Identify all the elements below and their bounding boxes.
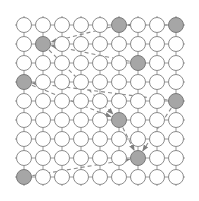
grid-node (55, 56, 70, 71)
grid-node (17, 132, 32, 147)
grid-node (74, 37, 89, 52)
grid-node (36, 132, 51, 147)
grid-node (36, 75, 51, 90)
grid-node (169, 170, 184, 185)
grid-node (93, 170, 108, 185)
grid-node (17, 18, 32, 33)
grid-node (131, 113, 146, 128)
grid-node (169, 75, 184, 90)
grid-node (55, 94, 70, 109)
grid-node (169, 56, 184, 71)
active-node (112, 18, 127, 33)
grid-node (150, 56, 165, 71)
grid-node (169, 151, 184, 166)
active-node (131, 151, 146, 166)
grid-node (131, 132, 146, 147)
grid-node (93, 18, 108, 33)
active-node (17, 170, 32, 185)
active-node (36, 37, 51, 52)
grid-node (93, 94, 108, 109)
grid-node (55, 151, 70, 166)
grid-node (55, 75, 70, 90)
grid-node (17, 56, 32, 71)
grid-node (169, 132, 184, 147)
grid-node (17, 151, 32, 166)
grid-node (93, 113, 108, 128)
grid-node (150, 37, 165, 52)
grid-node (17, 113, 32, 128)
grid-node (150, 170, 165, 185)
grid-node (74, 132, 89, 147)
active-node (131, 56, 146, 71)
grid-node (55, 132, 70, 147)
active-node (169, 18, 184, 33)
grid-node (150, 132, 165, 147)
active-node (17, 75, 32, 90)
grid-node (131, 170, 146, 185)
grid-node (74, 56, 89, 71)
grid-node (36, 151, 51, 166)
grid-node (169, 37, 184, 52)
grid-node (36, 94, 51, 109)
grid-node (55, 37, 70, 52)
grid-node (150, 75, 165, 90)
grid-node (131, 37, 146, 52)
grid-node (131, 94, 146, 109)
grid-node (55, 170, 70, 185)
grid-node (74, 170, 89, 185)
grid-node (112, 132, 127, 147)
grid-node (150, 151, 165, 166)
grid-node (93, 132, 108, 147)
grid-node (93, 37, 108, 52)
grid-node (131, 75, 146, 90)
grid-nodes (17, 18, 184, 185)
active-node (169, 94, 184, 109)
grid-node (131, 18, 146, 33)
grid-node (17, 37, 32, 52)
grid-node (74, 75, 89, 90)
grid-diagram (0, 0, 199, 201)
grid-node (36, 18, 51, 33)
grid-node (74, 94, 89, 109)
grid-node (112, 151, 127, 166)
grid-node (112, 75, 127, 90)
active-node (112, 113, 127, 128)
grid-node (74, 151, 89, 166)
grid-node (150, 94, 165, 109)
grid-node (112, 56, 127, 71)
grid-node (74, 113, 89, 128)
grid-node (74, 18, 89, 33)
grid-node (36, 56, 51, 71)
grid-node (112, 94, 127, 109)
grid-node (55, 113, 70, 128)
grid-node (93, 75, 108, 90)
grid-node (169, 113, 184, 128)
grid-node (150, 18, 165, 33)
grid-node (93, 56, 108, 71)
grid-node (93, 151, 108, 166)
grid-node (112, 170, 127, 185)
grid-node (36, 170, 51, 185)
grid-node (150, 113, 165, 128)
grid-node (55, 18, 70, 33)
grid-node (112, 37, 127, 52)
grid-node (36, 113, 51, 128)
grid-node (17, 94, 32, 109)
